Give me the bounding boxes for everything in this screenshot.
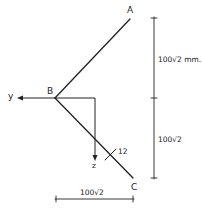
dimension-label-vertical-lower: 100√2: [158, 136, 182, 144]
point-label-c: C: [131, 183, 137, 192]
axis-label-z: z: [92, 162, 96, 170]
axis-label-y: y: [8, 92, 13, 101]
angle-mark-label: 12: [118, 148, 128, 156]
diagram-canvas: [0, 0, 202, 208]
point-label-b: B: [47, 87, 53, 96]
dimension-label-vertical-upper: 100√2 mm.: [158, 56, 201, 64]
dimension-label-horizontal: 100√2: [80, 189, 104, 197]
member-ab: [55, 19, 130, 98]
point-label-a: A: [127, 6, 133, 15]
y-arrow-icon: [17, 96, 23, 101]
z-axis-bracket: [55, 98, 95, 158]
